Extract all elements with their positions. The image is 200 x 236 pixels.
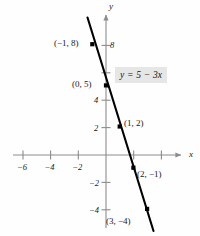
x-tick-label-minus4: −4 — [45, 163, 55, 172]
y-tick-label-4: 4 — [94, 96, 98, 105]
point-label-3-neg4: (3, −4) — [106, 217, 131, 226]
x-tick-label-minus2: −2 — [72, 163, 82, 172]
y-tick-label-minus2: −2 — [89, 179, 99, 188]
point-label-1-2: (1, 2) — [124, 119, 144, 128]
point-label-neg1-8: (−1, 8) — [54, 39, 79, 48]
marker-point-5 — [145, 207, 149, 211]
marker-point-1 — [90, 42, 94, 46]
marker-point-2 — [104, 83, 108, 87]
marker-point-3 — [118, 124, 122, 128]
y-axis-label: y — [109, 2, 113, 11]
point-label-0-5: (0, 5) — [72, 80, 92, 89]
x-axis-label: x — [189, 150, 193, 159]
y-tick-label-8: 8 — [110, 41, 114, 50]
y-tick-label-minus4: −4 — [89, 206, 99, 215]
equation-label: y = 5 − 3x — [115, 67, 167, 83]
y-tick-label-2: 2 — [94, 124, 98, 133]
x-tick-label-minus6: −6 — [17, 163, 27, 172]
marker-point-4 — [131, 166, 135, 170]
graph-figure: x y −6 −4 −2 8 4 2 −2 −4 (−1, 8) (0, 5) … — [0, 0, 200, 236]
coordinate-plane-svg — [0, 0, 200, 236]
point-label-2-neg1: (2, −1) — [137, 170, 162, 179]
